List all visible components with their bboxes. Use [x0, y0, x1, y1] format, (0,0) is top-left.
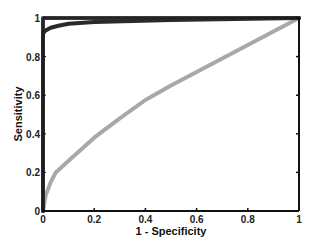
y-tick-label: 0.6	[26, 90, 40, 101]
x-tick-label: 1	[296, 214, 302, 225]
plot-series	[43, 18, 299, 211]
roc-chart: 00.20.40.60.8100.20.40.60.81 1 - Specifi…	[0, 0, 316, 248]
y-tick-label: 0.4	[26, 129, 40, 140]
x-tick-label: 0.6	[190, 214, 204, 225]
tick-labels: 00.20.40.60.8100.20.40.60.81	[26, 13, 302, 225]
x-axis-label: 1 - Specificity	[136, 225, 208, 237]
series-near-perfect-roc	[43, 18, 299, 211]
y-tick-label: 0.8	[26, 52, 40, 63]
series-moderate-roc	[43, 18, 299, 211]
y-tick-label: 0	[34, 206, 40, 217]
y-tick-label: 0.2	[26, 167, 40, 178]
y-tick-label: 1	[34, 13, 40, 24]
x-tick-label: 0	[40, 214, 46, 225]
y-axis-label: Sensitivity	[12, 86, 24, 142]
axes	[43, 18, 299, 211]
series-perfect-classifier	[43, 18, 299, 211]
x-tick-label: 0.8	[241, 214, 255, 225]
x-tick-label: 0.2	[87, 214, 101, 225]
x-tick-label: 0.4	[138, 214, 152, 225]
